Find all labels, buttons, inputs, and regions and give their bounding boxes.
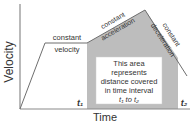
x-axis-label: Time: [93, 111, 117, 123]
constant-velocity-label-2: velocity: [54, 45, 79, 54]
t1-marker: t₁: [77, 98, 83, 108]
area-note-line-3: distance covered: [101, 77, 158, 86]
y-axis-label: Velocity: [2, 41, 16, 82]
constant-velocity-label-1: constant: [53, 33, 82, 42]
area-note-line-2: represents: [111, 68, 147, 77]
t2-marker: t₂: [181, 98, 188, 108]
area-note-line-1: This area: [113, 59, 145, 68]
velocity-time-diagram: Velocity Time constant velocity constant…: [0, 0, 195, 134]
area-note-line-5: t₁ to t₂: [119, 95, 139, 104]
area-note-line-4: in time interval: [105, 86, 154, 95]
